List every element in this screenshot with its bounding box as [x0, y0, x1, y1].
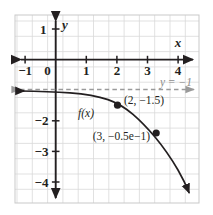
x-tick-label-3: 3 — [144, 63, 151, 78]
y-tick-label-neg3: −3 — [35, 144, 49, 159]
coordinate-plane: x y −1 0 1 2 3 4 1 −2 −3 −4 y = −1 (2, −… — [0, 0, 213, 215]
data-point-1-label: (2, −1.5) — [124, 94, 164, 107]
graph-figure: x y −1 0 1 2 3 4 1 −2 −3 −4 y = −1 (2, −… — [0, 0, 213, 215]
y-tick-label-neg2: −2 — [35, 113, 49, 128]
x-tick-label-neg1: −1 — [18, 63, 32, 78]
x-tick-label-0: 0 — [44, 63, 51, 78]
y-axis-label: y — [60, 17, 68, 32]
data-point-2-label: (3, −0.5e−1) — [93, 130, 151, 143]
x-tick-label-1: 1 — [83, 63, 90, 78]
x-tick-label-2: 2 — [114, 63, 121, 78]
data-point-1 — [114, 102, 121, 109]
function-label: f(x) — [78, 107, 94, 120]
asymptote-label: y = −1 — [159, 76, 192, 89]
data-point-2 — [153, 129, 160, 136]
y-tick-label-1: 1 — [40, 22, 47, 37]
y-tick-label-neg4: −4 — [35, 175, 49, 190]
x-axis-label: x — [174, 35, 182, 50]
